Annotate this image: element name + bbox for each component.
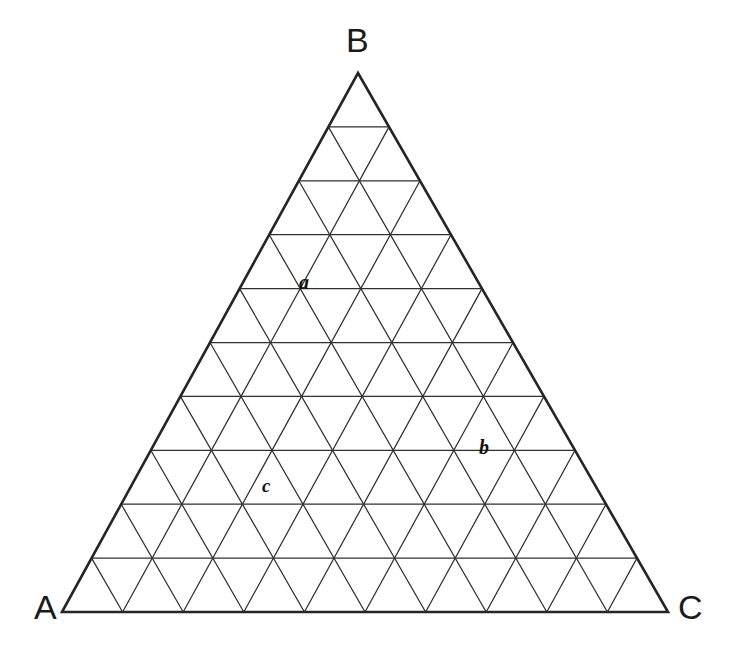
point-label-c: c <box>262 476 270 495</box>
ternary-grid-svg <box>0 0 743 649</box>
grid-line-group <box>92 127 637 612</box>
vertex-label-b: B <box>346 23 369 57</box>
vertex-label-a: A <box>34 590 57 624</box>
point-label-a: a <box>299 272 309 292</box>
ternary-diagram-figure: B A C a b c <box>0 0 743 649</box>
point-label-b: b <box>479 437 489 457</box>
vertex-label-c: C <box>678 590 703 624</box>
